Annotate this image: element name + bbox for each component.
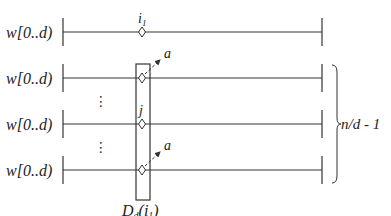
vertical-ellipsis: ⋮ [94, 93, 108, 109]
brace-label: n/d - 1 [341, 116, 380, 132]
right-brace-icon [332, 65, 341, 183]
dashed-arrow-icon [145, 60, 160, 74]
diagram-canvas: w[0..d) i1 w[0..d) a ⋮ w[0..d) j ⋮ w[0..… [0, 0, 391, 216]
dashed-arrow-icon [145, 152, 160, 166]
row-label: w[0..d) [6, 24, 52, 42]
column-box [136, 64, 150, 200]
row-4: w[0..d) a [6, 138, 322, 184]
diamond-marker-icon [139, 165, 146, 175]
row-2: w[0..d) a [6, 46, 322, 92]
row-1: w[0..d) i1 [6, 11, 322, 46]
box-label: Dd(i1) [121, 202, 159, 216]
row-label: w[0..d) [6, 162, 52, 180]
marker-label-i1: i1 [138, 11, 146, 28]
row-3: w[0..d) j [6, 103, 322, 138]
row-label: w[0..d) [6, 116, 52, 134]
arrow-label: a [164, 46, 171, 61]
row-label: w[0..d) [6, 70, 52, 88]
arrow-label: a [164, 138, 171, 153]
diamond-marker-icon [139, 119, 146, 129]
diamond-marker-icon [139, 73, 146, 83]
marker-label-j: j [137, 103, 143, 118]
vertical-ellipsis: ⋮ [94, 139, 108, 155]
diagram-svg: w[0..d) i1 w[0..d) a ⋮ w[0..d) j ⋮ w[0..… [0, 0, 391, 216]
diamond-marker-icon [139, 27, 146, 37]
